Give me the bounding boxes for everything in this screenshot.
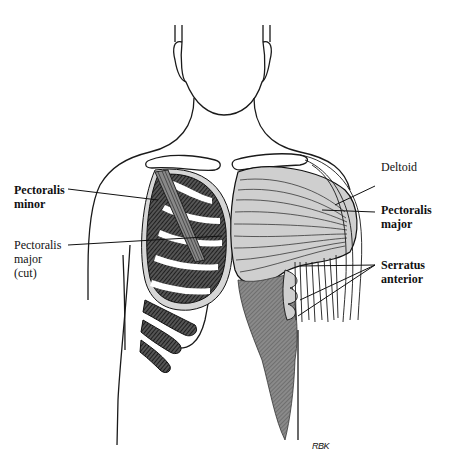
label-text: Pectoralis (14, 183, 65, 197)
pectoralis-major-right (231, 167, 357, 284)
head-outline (175, 25, 270, 42)
label-serratus-anterior: Serratus anterior (381, 258, 425, 286)
label-pectoralis-major-cut: Pectoralis major (cut) (14, 238, 61, 280)
anatomy-figure: Pectoralis minor Pectoralis major (cut) … (0, 0, 449, 462)
label-pectoralis-minor: Pectoralis minor (14, 183, 65, 211)
label-pectoralis-major: Pectoralis major (381, 203, 432, 231)
label-text: Pectoralis (381, 203, 432, 217)
anatomy-illustration (0, 0, 449, 462)
artist-signature: RBK (312, 441, 329, 451)
clavicle-left (146, 155, 221, 170)
label-text: anterior (381, 272, 425, 286)
label-text: Serratus (381, 258, 425, 272)
label-deltoid: Deltoid (381, 160, 417, 174)
label-text: (cut) (14, 266, 61, 280)
label-text: Pectoralis (14, 238, 61, 252)
label-text: major (14, 252, 61, 266)
label-text: Deltoid (381, 160, 417, 174)
label-text: minor (14, 197, 65, 211)
label-text: major (381, 217, 432, 231)
